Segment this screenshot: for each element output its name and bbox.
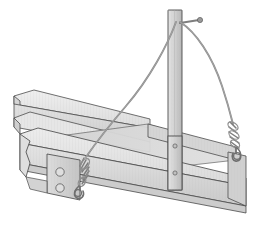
formwork-illustration (0, 0, 253, 230)
anchor-pin-head (197, 17, 202, 22)
post-top-anchor-pin (180, 17, 203, 23)
figure-root (0, 0, 253, 230)
post-over-wall-overlap (168, 136, 182, 190)
right-end-panel (228, 152, 246, 206)
bulkhead-bolt-upper (56, 168, 64, 176)
right-bracing-cable (180, 22, 233, 124)
bulkhead-bolt-lower (56, 184, 64, 192)
